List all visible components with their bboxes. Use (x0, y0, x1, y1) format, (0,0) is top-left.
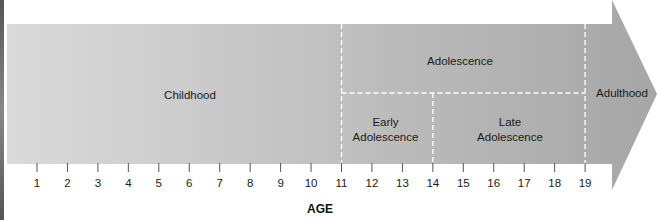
age-tick-label-12: 12 (360, 177, 384, 189)
age-tick-label-9: 9 (269, 177, 293, 189)
age-tick-label-7: 7 (208, 177, 232, 189)
age-tick-label-6: 6 (177, 177, 201, 189)
age-tick-label-5: 5 (147, 177, 171, 189)
age-tick-label-18: 18 (543, 177, 567, 189)
age-tick-label-2: 2 (55, 177, 79, 189)
stage-label-early-adolescence: Early Adolescence (340, 115, 431, 145)
age-tick-label-16: 16 (482, 177, 506, 189)
age-tick-label-4: 4 (116, 177, 140, 189)
age-tick-label-3: 3 (86, 177, 110, 189)
age-tick-label-1: 1 (25, 177, 49, 189)
stage-label-adolescence: Adolescence (400, 54, 520, 69)
age-tick-label-13: 13 (390, 177, 414, 189)
age-tick-label-10: 10 (299, 177, 323, 189)
late-line2: Adolescence (455, 130, 565, 145)
age-tick-label-8: 8 (238, 177, 262, 189)
late-line1: Late (455, 115, 565, 130)
stage-label-childhood: Childhood (120, 88, 260, 103)
development-timeline-diagram: Childhood Adolescence Early Adolescence … (0, 0, 657, 220)
age-tick-label-11: 11 (330, 177, 354, 189)
stage-label-adulthood: Adulthood (589, 86, 655, 101)
axis-title-age: AGE (290, 202, 350, 216)
age-tick-label-14: 14 (421, 177, 445, 189)
age-tick-label-19: 19 (573, 177, 597, 189)
arrow-shape (7, 0, 657, 190)
age-tick-label-15: 15 (451, 177, 475, 189)
stage-label-late-adolescence: Late Adolescence (455, 115, 565, 145)
early-line2: Adolescence (340, 130, 431, 145)
early-line1: Early (340, 115, 431, 130)
age-tick-label-17: 17 (512, 177, 536, 189)
